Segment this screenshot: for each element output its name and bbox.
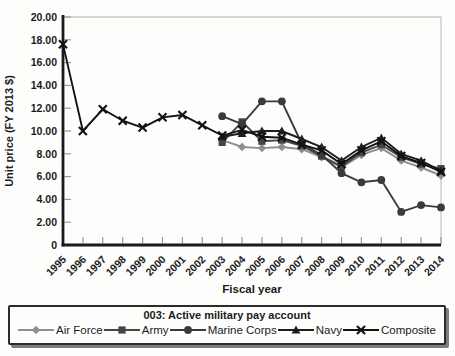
x-tick-label: 2004 [222, 253, 247, 278]
chart-legend: 003: Active military pay account Air For… [8, 305, 446, 345]
x-tick-label: 1995 [43, 253, 68, 278]
x-tick-label: 2010 [342, 253, 367, 278]
legend-title: 003: Active military pay account [18, 309, 436, 322]
legend-item-navy: Navy [278, 324, 342, 336]
triangle-marker-icon [278, 324, 314, 336]
x-marker-icon [343, 324, 379, 336]
legend-item-composite: Composite [343, 324, 436, 336]
y-tick-label: 0 [51, 239, 57, 251]
y-tick-label: 12.00 [31, 102, 57, 114]
legend-label: Air Force [56, 324, 103, 336]
legend-label: Composite [381, 324, 436, 336]
legend-item-army: Army [104, 324, 169, 336]
x-tick-label: 1997 [83, 253, 108, 278]
x-tick-label: 2005 [242, 253, 267, 278]
legend-item-marine-corps: Marine Corps [170, 324, 277, 336]
y-tick-label: 14.00 [31, 79, 57, 91]
chart-figure: 02.004.006.008.0010.0012.0014.0016.0018.… [0, 0, 455, 356]
series-composite [59, 40, 445, 176]
x-tick-label: 2008 [302, 253, 327, 278]
x-tick-label: 2011 [362, 253, 387, 278]
legend-items: Air ForceArmyMarine CorpsNavyComposite [18, 324, 436, 336]
x-tick-label: 2009 [322, 253, 347, 278]
legend-label: Army [142, 324, 169, 336]
series-line [222, 122, 441, 169]
x-tick-label: 1998 [103, 253, 128, 278]
y-tick-label: 18.00 [31, 34, 57, 46]
series-line [63, 44, 441, 172]
diamond-marker-icon [18, 324, 54, 336]
circle-marker-icon [170, 324, 206, 336]
x-tick-label: 2007 [282, 253, 307, 278]
legend-item-air-force: Air Force [18, 324, 103, 336]
y-tick-label: 20.00 [31, 11, 57, 23]
y-tick-label: 6.00 [37, 170, 58, 182]
unit-price-line-chart: 02.004.006.008.0010.0012.0014.0016.0018.… [0, 0, 455, 302]
x-axis-title: Fiscal year [222, 283, 282, 295]
x-tick-label: 2003 [203, 253, 228, 278]
y-tick-label: 8.00 [37, 148, 58, 160]
x-tick-label: 2002 [183, 253, 208, 278]
y-axis-title: Unit price (FY 2013 $) [3, 75, 15, 187]
x-tick-label: 2014 [421, 253, 446, 278]
y-tick-label: 16.00 [31, 56, 57, 68]
legend-label: Marine Corps [208, 324, 277, 336]
legend-label: Navy [316, 324, 342, 336]
x-tick-label: 2013 [402, 253, 427, 278]
x-tick-label: 2012 [382, 253, 407, 278]
x-tick-label: 2000 [143, 253, 168, 278]
x-tick-label: 1999 [123, 253, 148, 278]
y-tick-label: 4.00 [37, 193, 58, 205]
x-tick-label: 2006 [262, 253, 287, 278]
y-tick-label: 2.00 [37, 216, 58, 228]
y-tick-label: 10.00 [31, 125, 57, 137]
x-tick-label: 1996 [63, 253, 88, 278]
x-tick-label: 2001 [163, 253, 188, 278]
square-marker-icon [104, 324, 140, 336]
